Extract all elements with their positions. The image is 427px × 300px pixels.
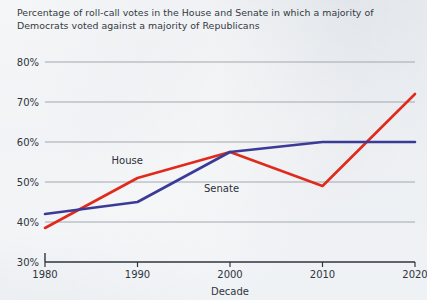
x-tick-label: 2020 [402, 269, 427, 280]
series-inline-labels: HouseSenate [112, 155, 240, 194]
y-tick-label: 50% [17, 177, 39, 188]
data-series-group [45, 94, 415, 228]
x-tick-marks-group [45, 262, 415, 267]
series-label-senate: Senate [204, 183, 239, 194]
x-tick-label: 2000 [217, 269, 242, 280]
y-tick-label: 30% [17, 257, 39, 268]
x-tick-label: 1980 [32, 269, 57, 280]
y-axis-tick-labels: 30%40%50%60%70%80% [17, 57, 39, 268]
series-line-senate [45, 142, 415, 214]
x-tick-label: 1990 [125, 269, 150, 280]
chart-plot-area: 30%40%50%60%70%80% 19801990200020102020 … [0, 0, 427, 300]
x-tick-label: 2010 [310, 269, 335, 280]
x-axis-tick-labels: 19801990200020102020 [32, 269, 427, 280]
y-tick-label: 80% [17, 57, 39, 68]
axes-group [45, 253, 415, 262]
y-tick-label: 70% [17, 97, 39, 108]
x-axis-title: Decade [211, 286, 249, 297]
series-label-house: House [112, 155, 143, 166]
chart-figure: Percentage of roll-call votes in the Hou… [0, 0, 427, 300]
y-tick-label: 40% [17, 217, 39, 228]
y-tick-label: 60% [17, 137, 39, 148]
